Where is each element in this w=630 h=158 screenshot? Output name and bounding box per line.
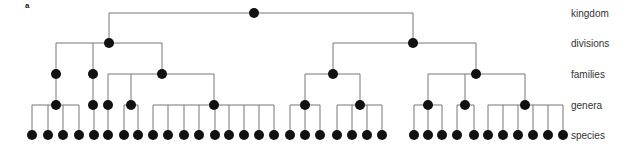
- node-species: [163, 130, 173, 140]
- node-kingdom: [249, 8, 259, 18]
- node-species: [452, 130, 462, 140]
- node-genera: [520, 100, 530, 110]
- node-species: [377, 130, 387, 140]
- node-species: [423, 130, 433, 140]
- node-genera: [209, 100, 219, 110]
- node-species: [315, 130, 325, 140]
- node-species: [285, 130, 295, 140]
- node-species: [558, 130, 568, 140]
- tree-diagram: [0, 0, 630, 158]
- node-species: [89, 130, 99, 140]
- node-species: [179, 130, 189, 140]
- node-genera: [51, 100, 61, 110]
- node-species: [103, 130, 113, 140]
- node-species: [194, 130, 204, 140]
- node-species: [133, 130, 143, 140]
- node-species: [224, 130, 234, 140]
- node-species: [210, 130, 220, 140]
- node-species: [528, 130, 538, 140]
- tree-edges: [32, 13, 563, 135]
- node-divisions: [104, 38, 114, 48]
- level-label-families: families: [571, 69, 605, 80]
- node-families: [51, 69, 61, 79]
- node-species: [513, 130, 523, 140]
- node-species: [543, 130, 553, 140]
- node-species: [119, 130, 129, 140]
- node-species: [347, 130, 357, 140]
- node-species: [498, 130, 508, 140]
- node-species: [483, 130, 493, 140]
- node-species: [269, 130, 279, 140]
- level-label-genera: genera: [571, 100, 602, 111]
- node-divisions: [408, 38, 418, 48]
- node-species: [254, 130, 264, 140]
- node-species: [332, 130, 342, 140]
- level-label-species: species: [571, 130, 605, 141]
- node-genera: [300, 100, 310, 110]
- node-species: [148, 130, 158, 140]
- node-species: [469, 130, 479, 140]
- node-species: [43, 130, 53, 140]
- node-genera: [460, 100, 470, 110]
- node-species: [362, 130, 372, 140]
- node-species: [74, 130, 84, 140]
- node-families: [88, 69, 98, 79]
- level-label-divisions: divisions: [571, 38, 609, 49]
- node-species: [437, 130, 447, 140]
- node-genera: [423, 100, 433, 110]
- node-families: [471, 69, 481, 79]
- node-species: [27, 130, 37, 140]
- node-species: [300, 130, 310, 140]
- node-families: [157, 69, 167, 79]
- node-species: [58, 130, 68, 140]
- node-genera: [126, 100, 136, 110]
- node-genera: [355, 100, 365, 110]
- level-label-kingdom: kingdom: [571, 8, 609, 19]
- node-species: [239, 130, 249, 140]
- node-genera: [103, 100, 113, 110]
- node-genera: [88, 100, 98, 110]
- node-species: [409, 130, 419, 140]
- node-families: [328, 69, 338, 79]
